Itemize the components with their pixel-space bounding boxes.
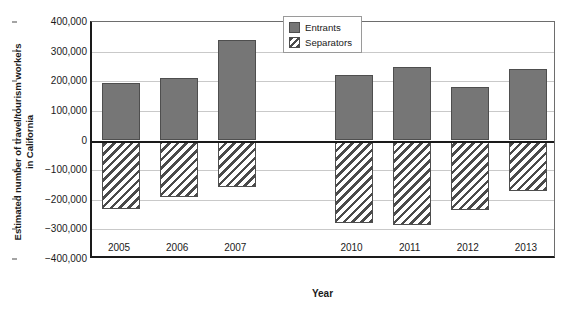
plot-area: [90, 21, 555, 258]
legend-item-label: Entrants: [305, 22, 341, 33]
bar-separators-2011: [393, 141, 431, 225]
y-tick-mark: [12, 21, 17, 22]
y-tick-label: 400,000: [17, 16, 87, 27]
y-tick-mark: [12, 51, 17, 52]
y-tick-mark: [12, 110, 17, 111]
legend-item-entrants[interactable]: Entrants: [289, 20, 356, 35]
x-tick-label: 2007: [205, 242, 265, 253]
gridline: [92, 229, 554, 230]
bar-separators-2010: [335, 141, 373, 224]
bar-separators-2013: [509, 141, 547, 192]
legend-item-separators[interactable]: Separators: [289, 35, 356, 50]
solid-gray-swatch: [289, 22, 300, 33]
y-tick-mark: [12, 228, 17, 229]
bar-entrants-2010: [335, 75, 373, 141]
zero-baseline: [92, 141, 554, 144]
bar-separators-2012: [451, 141, 489, 210]
legend-item-label: Separators: [305, 37, 352, 48]
y-tick-mark: [12, 199, 17, 200]
y-tick-mark: [12, 80, 17, 81]
bar-separators-2006: [160, 141, 198, 197]
bar-entrants-2005: [102, 83, 140, 141]
bar-entrants-2012: [451, 87, 489, 140]
y-tick-label: 0: [17, 134, 87, 145]
x-tick-label: 2005: [89, 242, 149, 253]
y-tick-mark: [12, 258, 17, 259]
bar-chart-figure: Estimated number of travel/tourism worke…: [0, 0, 571, 314]
x-axis-title: Year: [90, 288, 555, 299]
y-tick-label: −200,000: [17, 193, 87, 204]
y-tick-label: −300,000: [17, 223, 87, 234]
bar-separators-2007: [218, 141, 256, 188]
y-tick-label: 100,000: [17, 104, 87, 115]
x-tick-label: 2006: [147, 242, 207, 253]
y-tick-label: 300,000: [17, 45, 87, 56]
x-tick-label: 2013: [496, 242, 556, 253]
bar-separators-2005: [102, 141, 140, 210]
bar-entrants-2013: [509, 69, 547, 140]
x-tick-label: 2010: [322, 242, 382, 253]
y-tick-label: −400,000: [17, 253, 87, 264]
x-tick-label: 2011: [380, 242, 440, 253]
bar-entrants-2007: [218, 40, 256, 141]
x-tick-label: 2012: [438, 242, 498, 253]
chart-legend: EntrantsSeparators: [283, 16, 362, 53]
hatched-swatch: [289, 37, 300, 48]
y-tick-mark: [12, 169, 17, 170]
y-tick-mark: [12, 140, 17, 141]
y-tick-label: 200,000: [17, 75, 87, 86]
bar-entrants-2006: [160, 78, 198, 141]
y-tick-label: −100,000: [17, 164, 87, 175]
bar-entrants-2011: [393, 67, 431, 140]
